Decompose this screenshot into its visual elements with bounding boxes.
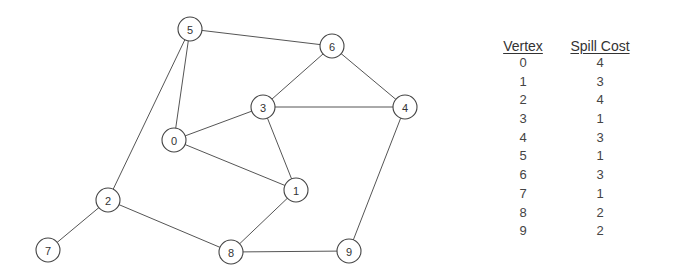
vertex-7: 7 (36, 238, 60, 262)
vertex-cell: 6 (486, 166, 560, 185)
table-row: 63 (486, 166, 640, 185)
edge-0-1 (174, 140, 296, 190)
vertex-9: 9 (337, 239, 361, 263)
table-row: 92 (486, 222, 640, 241)
vertex-1: 1 (284, 178, 308, 202)
spill-cost-cell: 2 (560, 222, 640, 241)
vertex-label: 8 (228, 247, 234, 259)
vertex-cell: 1 (486, 73, 560, 92)
vertex-4: 4 (393, 95, 417, 119)
spill-cost-cell: 1 (560, 110, 640, 129)
spill-cost-cell: 4 (560, 91, 640, 110)
spill-cost-table: Vertex Spill Cost 04132431435163718292 (486, 34, 640, 241)
spill-cost-cell: 2 (560, 204, 640, 223)
edge-4-9 (349, 107, 405, 251)
edge-8-9 (231, 251, 349, 252)
edge-3-1 (263, 107, 296, 190)
vertex-label: 7 (45, 245, 51, 257)
table-row: 51 (486, 147, 640, 166)
vertex-cell: 7 (486, 185, 560, 204)
table-row: 82 (486, 204, 640, 223)
table-row: 31 (486, 110, 640, 129)
vertex-cell: 5 (486, 147, 560, 166)
edge-5-6 (190, 29, 332, 46)
spill-cost-cell: 1 (560, 185, 640, 204)
vertex-label: 2 (105, 195, 111, 207)
vertex-cell: 8 (486, 204, 560, 223)
vertex-label: 4 (402, 102, 408, 114)
table-row: 43 (486, 129, 640, 148)
vertex-0: 0 (162, 128, 186, 152)
spill-cost-cell: 3 (560, 166, 640, 185)
graph-nodes: 0123456789 (36, 17, 417, 264)
table-row: 24 (486, 91, 640, 110)
table-row: 71 (486, 185, 640, 204)
vertex-5: 5 (178, 17, 202, 41)
vertex-label: 5 (187, 24, 193, 36)
vertex-cell: 4 (486, 129, 560, 148)
vertex-3: 3 (251, 95, 275, 119)
vertex-label: 9 (346, 246, 352, 258)
edge-1-8 (231, 190, 296, 252)
vertex-8: 8 (219, 240, 243, 264)
edge-6-4 (332, 46, 405, 107)
vertex-2: 2 (96, 188, 120, 212)
spill-cost-cell: 1 (560, 147, 640, 166)
vertex-cell: 3 (486, 110, 560, 129)
spill-cost-cell: 3 (560, 73, 640, 92)
edge-6-3 (263, 46, 332, 107)
spill-cost-cell: 4 (560, 54, 640, 73)
vertex-cell: 0 (486, 54, 560, 73)
vertex-label: 3 (260, 102, 266, 114)
interference-graph: 0123456789 (0, 0, 460, 274)
vertex-label: 0 (171, 135, 177, 147)
spill-cost-header: Spill Cost (570, 38, 629, 54)
vertex-cell: 9 (486, 222, 560, 241)
table-body: 04132431435163718292 (486, 54, 640, 241)
vertex-6: 6 (320, 34, 344, 58)
table-header: Vertex Spill Cost (486, 34, 640, 54)
vertex-label: 1 (293, 185, 299, 197)
graph-edges (48, 29, 405, 252)
edge-2-8 (108, 200, 231, 252)
vertex-cell: 2 (486, 91, 560, 110)
table-row: 13 (486, 73, 640, 92)
table-row: 04 (486, 54, 640, 73)
vertex-label: 6 (329, 41, 335, 53)
edge-3-0 (174, 107, 263, 140)
vertex-header: Vertex (503, 38, 543, 54)
spill-cost-cell: 3 (560, 129, 640, 148)
